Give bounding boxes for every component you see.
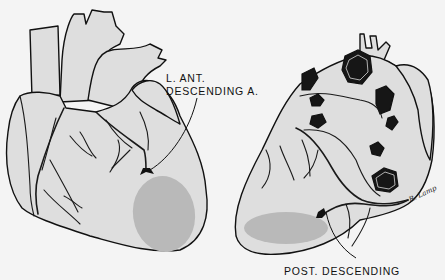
pda-label: POST. DESCENDING [284,265,400,278]
lad-label-line2: DESCENDING A. [166,85,259,98]
heart-illustration [0,0,445,280]
anterior-heart [7,10,208,256]
superior-vena-cava [30,26,60,98]
lad-label-line1: L. ANT. [166,72,205,85]
posterior-infarct-area [244,212,328,244]
posterior-heart [235,34,434,258]
